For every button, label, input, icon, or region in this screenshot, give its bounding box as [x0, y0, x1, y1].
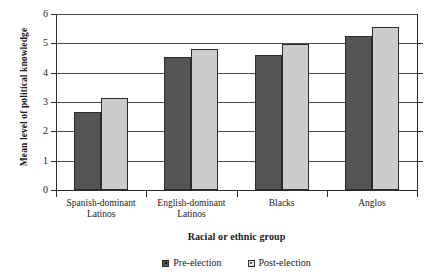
y-axis-tick [51, 131, 56, 132]
legend-label: Pre-election [173, 257, 221, 269]
x-axis-divider-tick [146, 190, 147, 197]
bar [255, 55, 282, 190]
bar [101, 98, 128, 190]
bar [191, 49, 218, 190]
y-axis-title: Mean level of political knowledge [16, 2, 32, 192]
x-axis-title: Racial or ethnic group [56, 231, 417, 242]
y-axis-tick [51, 73, 56, 74]
legend-swatch-icon [248, 260, 255, 267]
y-axis-tick-right [417, 161, 423, 162]
bar-chart-figure: Mean level of political knowledge 012345… [0, 0, 427, 279]
y-axis-tick-label: 6 [43, 9, 48, 19]
y-axis-tick-label: 1 [43, 156, 48, 166]
x-axis-tick-label: Blacks [237, 198, 327, 209]
y-axis-tick-right [417, 43, 423, 44]
gridline [56, 14, 417, 15]
bar [345, 36, 372, 190]
x-axis-divider-tick [56, 190, 57, 197]
y-axis-tick-label: 3 [43, 97, 48, 107]
bar [164, 57, 191, 190]
x-axis-divider-tick [417, 190, 418, 197]
y-axis-tick-label: 2 [43, 126, 48, 136]
x-axis-tick-label: Spanish-dominant Latinos [56, 198, 146, 220]
plot-inner: 0123456 [56, 14, 417, 190]
legend-item: Pre-election [162, 257, 221, 269]
y-axis-tick-label: 0 [43, 185, 48, 195]
y-axis-tick [51, 161, 56, 162]
y-axis-tick-label: 4 [43, 68, 48, 78]
y-axis-tick [51, 102, 56, 103]
y-axis-tick [51, 14, 56, 15]
legend-swatch-icon [162, 260, 169, 267]
chart-legend: Pre-electionPost-election [56, 257, 417, 269]
bar [372, 27, 399, 190]
plot-area: 0123456 [56, 14, 417, 190]
y-axis-tick-label: 5 [43, 38, 48, 48]
legend-label: Post-election [259, 257, 311, 269]
x-axis-tick-label: Anglos [327, 198, 417, 209]
y-axis-tick-right [417, 102, 423, 103]
y-axis-tick [51, 43, 56, 44]
y-axis-tick-right [417, 73, 423, 74]
y-axis-tick-right [417, 131, 423, 132]
x-axis-divider-tick [237, 190, 238, 197]
bar [74, 112, 101, 190]
x-axis-tick-label: English-dominant Latinos [146, 198, 236, 220]
x-axis-divider-tick [327, 190, 328, 197]
bar [282, 44, 309, 190]
legend-item: Post-election [248, 257, 311, 269]
